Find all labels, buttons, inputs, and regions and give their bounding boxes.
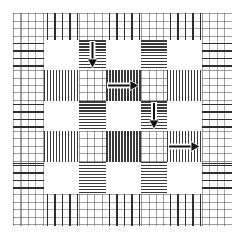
cell-v-dense-r4c1	[44, 131, 79, 162]
cell-white-r3c3	[106, 101, 141, 131]
cell-grid-r0c0	[13, 13, 44, 40]
cell-h-sparse-r5c6	[202, 162, 232, 194]
cell-grid-r2c0	[13, 70, 44, 101]
cell-h-sparse-r3c0	[13, 101, 44, 131]
cell-grid-r6c6	[202, 194, 232, 226]
cell-grid-r6c4	[141, 194, 167, 226]
arrow-right-icon	[106, 70, 141, 101]
cell-v-sparse-r6c3	[106, 194, 141, 226]
cell-white-r5c1	[44, 162, 79, 194]
cell-h-sparse-r3c6	[202, 101, 232, 131]
cell-h-dense-r1c4	[141, 40, 167, 70]
cell-v-dense-r2c1	[44, 70, 79, 101]
cell-grid-r0c2	[79, 13, 106, 40]
cell-grid-r6c0	[13, 194, 44, 226]
cell-white-r3c1	[44, 101, 79, 131]
cell-grid-r4c2	[79, 131, 106, 162]
cell-v-sparse-r6c5	[167, 194, 202, 226]
cell-v-dense-r4c3	[106, 131, 141, 162]
cell-white-r1c3	[106, 40, 141, 70]
cell-white-r1c1	[44, 40, 79, 70]
arrow-right-icon	[167, 131, 202, 162]
cell-v-sparse-r0c5	[167, 13, 202, 40]
cell-white-r1c5	[167, 40, 202, 70]
cell-grid-r4c4	[141, 131, 167, 162]
cell-h-dense-r3c2	[79, 101, 106, 131]
cell-h-dense-r5c4	[141, 162, 167, 194]
cell-grid-r4c6	[202, 131, 232, 162]
cell-v-sparse-r6c1	[44, 194, 79, 226]
cell-white-r5c3	[106, 162, 141, 194]
cell-grid-r0c6	[202, 13, 232, 40]
cell-v-sparse-r0c1	[44, 13, 79, 40]
cell-grid-r2c4	[141, 70, 167, 101]
cell-v-sparse-r0c3	[106, 13, 141, 40]
cell-grid-r6c2	[79, 194, 106, 226]
cell-grid-r4c0	[13, 131, 44, 162]
arrow-down-icon	[79, 40, 106, 70]
cell-h-sparse-r1c6	[202, 40, 232, 70]
cell-h-sparse-r1c0	[13, 40, 44, 70]
cell-grid-r2c6	[202, 70, 232, 101]
cell-h-sparse-r5c0	[13, 162, 44, 194]
cell-grid-r0c4	[141, 13, 167, 40]
cell-white-r5c5	[167, 162, 202, 194]
cell-h-dense-r5c2	[79, 162, 106, 194]
arrow-down-icon	[141, 101, 167, 131]
cell-grid-r2c2	[79, 70, 106, 101]
checkerboard-diagram	[0, 0, 241, 237]
cell-white-r3c5	[167, 101, 202, 131]
cell-v-dense-r2c5	[167, 70, 202, 101]
